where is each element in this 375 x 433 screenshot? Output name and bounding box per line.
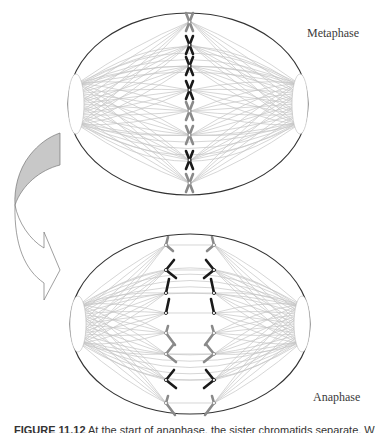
chromatid	[164, 326, 175, 345]
caption-text: At the start of anaphase, the sister chr…	[86, 424, 375, 433]
chromatid	[211, 279, 216, 295]
figure-number: FIGURE 11.12	[14, 424, 86, 433]
mitosis-diagram: Metaphase Anaphase FIGURE 11.12 At the s…	[0, 0, 375, 433]
figure-caption: FIGURE 11.12 At the start of anaphase, t…	[14, 424, 375, 433]
anaphase-label: Anaphase	[313, 390, 360, 405]
chromosome	[186, 13, 193, 31]
chromatid	[207, 237, 216, 251]
chromatid	[164, 344, 176, 362]
chromatid	[164, 237, 173, 251]
metaphase-cell	[68, 13, 308, 195]
chromatid	[164, 279, 169, 295]
chromatid	[205, 326, 216, 345]
anaphase-cell	[70, 234, 310, 415]
chromatid	[211, 299, 216, 315]
chromatid	[164, 299, 169, 315]
metaphase-label: Metaphase	[307, 26, 359, 41]
transition-arrow-icon	[15, 133, 60, 300]
chromatid	[204, 344, 216, 362]
